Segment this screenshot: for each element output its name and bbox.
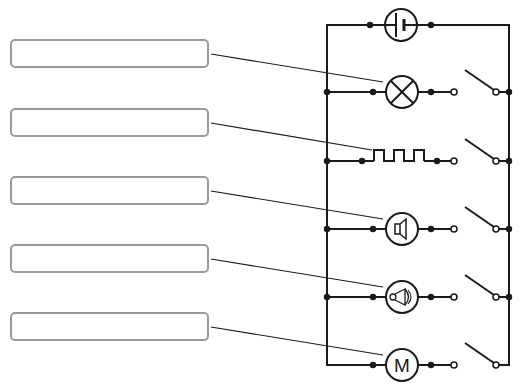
branch-heater — [327, 139, 509, 161]
motor-letter: M — [394, 355, 410, 376]
loudspeaker-icon — [386, 213, 418, 245]
leader-line-motor — [211, 327, 383, 355]
switch-terminals — [451, 89, 499, 368]
branch-bell — [327, 275, 509, 313]
branch-motor — [326, 343, 510, 381]
battery-cell-icon — [385, 9, 417, 41]
leader-line-loudspeaker — [211, 191, 383, 219]
leader-line-lamp — [211, 54, 383, 82]
leader-line-heater — [211, 123, 372, 150]
switch-lamp — [465, 70, 509, 92]
heating-element-icon — [374, 150, 424, 161]
switch-loudspeaker — [465, 207, 509, 229]
leader-lines — [211, 54, 383, 355]
branch-lamp — [327, 70, 509, 108]
junction-dots — [324, 22, 512, 368]
lamp-icon — [386, 76, 418, 108]
switch-motor — [465, 343, 510, 365]
main-rails — [326, 24, 510, 366]
circuit-diagram: M — [0, 0, 522, 391]
switch-heater — [465, 139, 509, 161]
leader-line-bell — [211, 259, 383, 287]
branch-loudspeaker — [327, 207, 509, 245]
switch-bell — [465, 275, 509, 297]
bell-icon — [386, 281, 418, 313]
